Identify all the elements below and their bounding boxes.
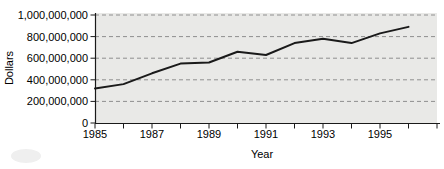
y-tick-label: 400,000,000 — [27, 74, 88, 86]
x-tick-label: 1989 — [197, 128, 221, 140]
y-tick-label: 800,000,000 — [27, 31, 88, 43]
y-axis-tick-labels: 0200,000,000400,000,000600,000,000800,00… — [18, 9, 88, 129]
x-tick-label: 1995 — [368, 128, 392, 140]
x-tick-label: 1993 — [311, 128, 335, 140]
y-axis-title: Dollars — [3, 50, 15, 85]
scan-artifact-smudge — [11, 149, 41, 163]
x-tick-label: 1987 — [140, 128, 164, 140]
y-tick-label: 1,000,000,000 — [18, 9, 88, 21]
x-axis-title: Year — [251, 148, 274, 160]
y-axis-ticks — [91, 15, 96, 123]
y-tick-label: 600,000,000 — [27, 52, 88, 64]
dollars-by-year-line-chart: 0200,000,000400,000,000600,000,000800,00… — [0, 0, 444, 169]
y-tick-label: 200,000,000 — [27, 95, 88, 107]
x-axis-tick-labels: 198519871989199119931995 — [83, 128, 392, 140]
plot-area — [95, 13, 437, 123]
line-chart: 0200,000,000400,000,000600,000,000800,00… — [0, 0, 444, 169]
x-tick-label: 1985 — [83, 128, 107, 140]
x-tick-label: 1991 — [254, 128, 278, 140]
